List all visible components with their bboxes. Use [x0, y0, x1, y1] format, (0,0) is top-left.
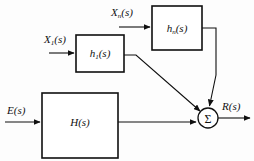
sigma-symbol: Σ [205, 112, 212, 126]
signal-label-xn: Xn(s) [110, 6, 133, 20]
signal-label-r: R(s) [221, 100, 241, 113]
block-h1-label: h1(s) [90, 47, 111, 61]
signal-label-e: E(s) [6, 104, 26, 117]
signal-x1-tail: (s) [54, 33, 66, 46]
block-H-label: H(s) [69, 116, 90, 129]
signal-r-tail: (s) [229, 100, 241, 113]
block-hn-label-tail: (s) [176, 22, 188, 35]
block-H-label-tail: (s) [78, 116, 90, 129]
signal-xn-tail: (s) [121, 6, 133, 19]
wire-hn-to-sigma [202, 28, 216, 106]
block-h1-label-tail: (s) [99, 47, 111, 60]
block-diagram: hn(s) h1(s) H(s) Σ X1(s) Xn(s) E(s) R(s) [0, 0, 254, 161]
block-hn-label: hn(s) [167, 22, 188, 36]
wire-h1-to-sigma [124, 55, 200, 111]
signal-label-x1: X1(s) [43, 33, 66, 47]
signal-e-tail: (s) [14, 104, 26, 117]
diagram-canvas: hn(s) h1(s) H(s) Σ X1(s) Xn(s) E(s) R(s) [0, 0, 254, 161]
